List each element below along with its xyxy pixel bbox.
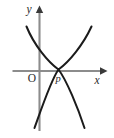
math-figure: y x O p xyxy=(0,0,114,138)
x-axis-label: x xyxy=(93,74,100,86)
label-layer: y x O p xyxy=(0,0,114,138)
origin-label: O xyxy=(28,72,36,84)
y-axis-label: y xyxy=(25,3,32,16)
intersection-point-label: p xyxy=(54,73,60,84)
